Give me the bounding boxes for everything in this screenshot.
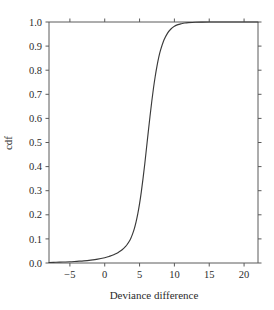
y-tick-label-10: 1.0 <box>29 17 42 28</box>
x-tick-label-2: 5 <box>137 269 142 280</box>
y-tick-label-9: 0.9 <box>29 41 42 52</box>
x-tick-label-1: 0 <box>102 269 107 280</box>
y-axis-title: cdf <box>2 136 14 150</box>
x-axis-title: Deviance difference <box>110 289 199 301</box>
y-tick-label-5: 0.5 <box>29 137 42 148</box>
y-tick-label-8: 0.8 <box>29 65 42 76</box>
y-tick-label-6: 0.6 <box>29 113 42 124</box>
y-tick-label-3: 0.3 <box>29 185 42 196</box>
chart-figure: −505101520 0.00.10.20.30.40.50.60.70.80.… <box>0 0 274 310</box>
cdf-line-chart: −505101520 0.00.10.20.30.40.50.60.70.80.… <box>0 0 274 310</box>
y-tick-label-4: 0.4 <box>29 161 43 172</box>
x-tick-label-3: 10 <box>169 269 180 280</box>
y-tick-label-2: 0.2 <box>29 209 42 220</box>
y-tick-label-7: 0.7 <box>29 89 42 100</box>
x-tick-label-4: 15 <box>204 269 215 280</box>
x-tick-label-0: −5 <box>64 269 75 280</box>
x-tick-label-5: 20 <box>239 269 250 280</box>
y-tick-label-1: 0.1 <box>29 234 42 245</box>
y-tick-label-0: 0.0 <box>29 258 42 269</box>
